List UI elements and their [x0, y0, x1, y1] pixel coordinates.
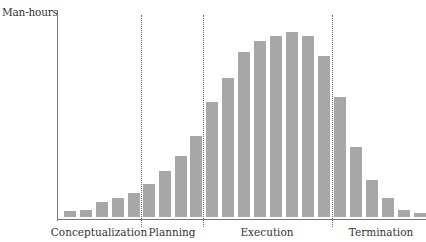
bar: [80, 210, 92, 217]
bar: [128, 193, 140, 217]
phase-divider: [332, 15, 333, 227]
bar: [350, 147, 362, 217]
bar: [382, 198, 394, 217]
phase-divider: [203, 15, 204, 227]
phase-divider: [141, 15, 142, 227]
bar: [302, 36, 314, 217]
bar: [270, 36, 282, 217]
bar: [143, 184, 155, 217]
bar: [334, 97, 346, 217]
bar: [206, 102, 218, 217]
bar: [190, 136, 202, 217]
bar: [366, 180, 378, 217]
bar: [398, 210, 410, 217]
phase-label-execution: Execution: [240, 226, 293, 238]
phase-label-conceptualization: Conceptualization: [51, 226, 147, 238]
bar: [64, 211, 76, 217]
bar: [112, 198, 124, 217]
phase-label-termination: Termination: [349, 226, 413, 238]
bar: [175, 156, 187, 217]
y-axis-label: Man-hours: [2, 6, 58, 18]
bar: [238, 52, 250, 217]
bar: [159, 171, 171, 217]
x-axis: [57, 219, 426, 220]
bar: [96, 202, 108, 217]
phase-label-planning: Planning: [148, 226, 195, 238]
bar: [414, 213, 426, 217]
bar: [318, 56, 330, 217]
y-axis: [57, 10, 58, 221]
bar: [254, 41, 266, 217]
bar: [286, 32, 298, 217]
bar: [222, 78, 234, 217]
